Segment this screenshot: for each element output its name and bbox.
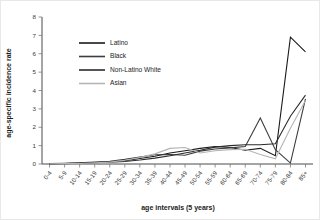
y-tick-label: 4 — [33, 87, 37, 94]
y-axis-title: age-specific incidence rate — [5, 48, 13, 138]
legend-label-latino: Latino — [110, 39, 128, 46]
x-tick-label: 45-49 — [173, 169, 189, 186]
line-chart: 012345678 0-45-910-1415-1920-2425-2930-3… — [1, 1, 320, 220]
x-tick-label: 35-39 — [143, 169, 159, 186]
x-tick-label: 10-14 — [68, 169, 84, 186]
y-tick-label: 2 — [33, 123, 37, 130]
y-tick-label: 7 — [33, 32, 37, 39]
y-tick-label: 5 — [33, 68, 37, 75]
x-axis-group: 0-45-910-1415-1920-2425-2930-3435-3940-4… — [42, 164, 313, 186]
legend-label-non-latino-white: Non-Latino White — [110, 66, 161, 73]
y-tick-label: 3 — [33, 105, 37, 112]
x-tick-label: 5-9 — [57, 169, 68, 181]
x-tick-label: 30-34 — [128, 169, 144, 186]
x-tick-label: 20-24 — [98, 169, 114, 186]
x-tick-label: 0-4 — [42, 169, 53, 181]
chart-figure: 012345678 0-45-910-1415-1920-2425-2930-3… — [0, 0, 320, 220]
x-tick-label: 80-84 — [278, 169, 294, 186]
x-tick-label: 55-59 — [203, 169, 219, 186]
legend-label-asian: Asian — [110, 79, 127, 86]
x-tick-label: 70-74 — [248, 169, 264, 186]
y-axis-group: 012345678 — [33, 13, 42, 167]
x-tick-label: 75-79 — [263, 169, 279, 186]
series-line-non-latino-white — [50, 95, 306, 164]
x-tick-label: 25-29 — [113, 169, 129, 186]
legend-label-black: Black — [110, 52, 127, 59]
x-tick-label: 15-19 — [83, 169, 99, 186]
y-tick-label: 0 — [33, 160, 37, 167]
x-tick-label: 40-44 — [158, 169, 174, 186]
x-tick-label: 65-69 — [233, 169, 249, 186]
y-tick-label: 6 — [33, 50, 37, 57]
x-tick-label: 85+ — [297, 169, 309, 182]
x-tick-label: 60-64 — [218, 169, 234, 186]
y-tick-label: 8 — [33, 13, 37, 20]
y-tick-labels: 012345678 — [33, 13, 42, 167]
x-tick-labels: 0-45-910-1415-1920-2425-2930-3435-3940-4… — [42, 164, 309, 186]
x-axis-title: age intervals (5 years) — [141, 204, 215, 212]
y-tick-label: 1 — [33, 142, 37, 149]
x-tick-label: 50-54 — [188, 169, 204, 186]
chart-legend: LatinoBlackNon-Latino WhiteAsian — [79, 39, 161, 87]
